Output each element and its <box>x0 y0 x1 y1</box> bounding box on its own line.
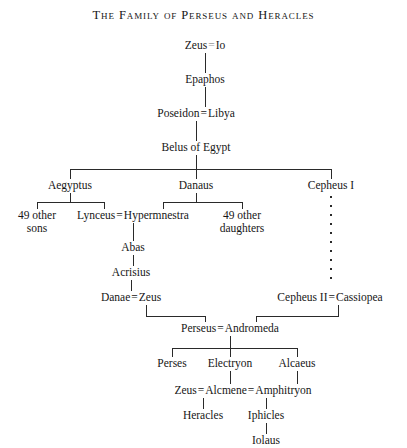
node-amphitryon: Amphitryon <box>255 384 311 396</box>
sibling-bar-perseus-children <box>172 348 297 349</box>
sibling-bar-belus-children <box>70 169 331 170</box>
marriage-symbol: = <box>216 322 225 334</box>
connector-danae-down <box>146 305 147 316</box>
connector-perseus-down <box>230 336 231 348</box>
node-epaphos: Epaphos <box>185 73 225 86</box>
connector-cepheus-to-andromeda <box>256 316 339 317</box>
node-49-other-sons: 49 other sons <box>18 209 56 234</box>
node-zeus-io: Zeus=Io <box>185 39 225 52</box>
connector-cassiopea-down <box>338 305 339 316</box>
node-cassiopea: Cassiopea <box>336 291 383 303</box>
node-zeus-io-left: Zeus <box>185 39 207 51</box>
node-aegyptus: Aegyptus <box>48 179 92 192</box>
connector-lynceus-abas <box>133 223 134 241</box>
node-acrisius: Acrisius <box>112 266 150 279</box>
node-zeus-io-right: Io <box>216 39 226 51</box>
connector-bar-hypermnestra <box>163 202 164 209</box>
node-cepheus-i: Cepheus I <box>308 179 354 192</box>
page-title: The Family of Perseus and Heracles <box>0 8 407 23</box>
node-zeus-consort: Zeus <box>139 291 161 303</box>
node-poseidon-libya: Poseidon=Libya <box>157 107 235 120</box>
marriage-symbol: = <box>199 107 208 119</box>
node-lynceus: Lynceus <box>77 209 115 221</box>
connector-danae-to-perseus <box>146 316 205 317</box>
node-alcmene: Alcmene <box>205 384 247 396</box>
node-zeus-father-of-heracles: Zeus <box>174 384 196 396</box>
node-49-other-daughters: 49 other daughters <box>220 209 265 234</box>
connector-acrisius-danae <box>131 280 132 291</box>
node-iphicles: Iphicles <box>248 409 284 422</box>
sibling-bar-aegyptus-children <box>37 202 104 203</box>
connector-bar-perses <box>172 348 173 357</box>
node-danaus: Danaus <box>179 179 214 192</box>
node-perseus-andromeda: Perseus=Andromeda <box>181 322 279 335</box>
marriage-symbol: = <box>130 291 139 303</box>
node-49-other-daughters-line1: 49 other <box>220 209 265 222</box>
connector-bar-danaus <box>196 169 197 179</box>
connector-cepheus-generations-skipped <box>330 196 332 286</box>
connector-alcmene-heracles <box>203 398 204 409</box>
connector-aegyptus-down <box>70 193 71 202</box>
connector-danaus-down <box>196 193 197 202</box>
connector-bar-alcaeus <box>297 348 298 357</box>
marriage-symbol: = <box>197 384 206 396</box>
connector-abas-acrisius <box>133 255 134 266</box>
node-andromeda: Andromeda <box>225 322 279 334</box>
node-cepheus-ii-cassiopea: Cepheus II=Cassiopea <box>277 291 382 304</box>
node-hypermnestra: Hypermnestra <box>124 209 189 221</box>
node-poseidon-libya-left: Poseidon <box>157 107 199 119</box>
connector-zeusio-epaphos <box>205 53 206 73</box>
marriage-symbol: = <box>328 291 337 303</box>
node-49-other-sons-line1: 49 other <box>18 209 56 222</box>
connector-belus-down <box>196 155 197 169</box>
node-iolaus: Iolaus <box>252 434 280 447</box>
connector-alcmene-iphicles <box>266 398 267 409</box>
node-danae: Danae <box>101 291 130 303</box>
connector-iphicles-iolaus <box>266 423 267 434</box>
marriage-symbol: = <box>247 384 256 396</box>
connector-bar-electryon <box>230 348 231 357</box>
marriage-symbol: = <box>115 209 124 221</box>
connector-bar-49-daughters <box>242 202 243 209</box>
node-belus-of-egypt: Belus of Egypt <box>162 141 231 154</box>
node-zeus-alcmene-amphitryon: Zeus=Alcmene=Amphitryon <box>174 384 311 397</box>
sibling-bar-danaus-children <box>163 202 242 203</box>
node-heracles: Heracles <box>183 409 223 422</box>
node-electryon: Electryon <box>208 357 253 370</box>
node-49-other-daughters-line2: daughters <box>220 222 265 235</box>
connector-bar-cepheus-i <box>331 169 332 179</box>
connector-bar-aegyptus <box>70 169 71 179</box>
connector-epaphos-poseidon <box>205 87 206 107</box>
connector-poseidon-belus <box>196 121 197 141</box>
connector-electryon-alcmene <box>230 371 231 384</box>
node-lynceus-hypermnestra: Lynceus=Hypermnestra <box>77 209 189 222</box>
node-cepheus-ii: Cepheus II <box>277 291 327 303</box>
node-danae-zeus: Danae=Zeus <box>101 291 161 304</box>
connector-alcaeus-amphitryon <box>297 371 298 384</box>
node-49-other-sons-line2: sons <box>18 222 56 235</box>
node-perseus: Perseus <box>181 322 216 334</box>
node-alcaeus: Alcaeus <box>278 357 315 370</box>
node-poseidon-libya-right: Libya <box>208 107 235 119</box>
node-perses: Perses <box>157 357 186 370</box>
connector-bar-lynceus <box>104 202 105 209</box>
connector-bar-49-sons <box>37 202 38 209</box>
node-abas: Abas <box>121 241 145 254</box>
genealogy-chart: The Family of Perseus and Heracles Zeus=… <box>0 0 407 448</box>
marriage-symbol: = <box>207 39 216 51</box>
